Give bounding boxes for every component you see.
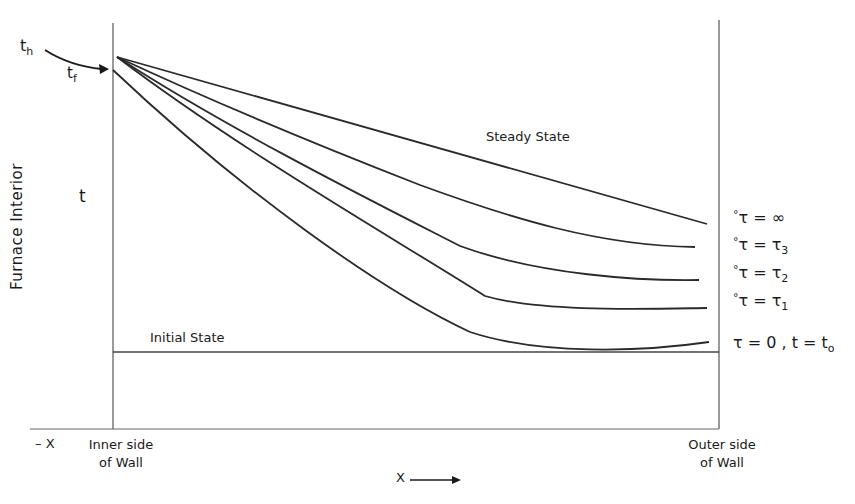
curve-tau-2 xyxy=(117,57,699,280)
curve-tau-1 xyxy=(117,57,707,309)
steady-state-label: Steady State xyxy=(486,129,570,144)
diagram-canvas xyxy=(0,0,855,504)
neg-x-label: – X xyxy=(35,436,55,451)
y-axis-label: Furnace Interior xyxy=(8,163,26,290)
legend-tau-2: °τ = τ2 xyxy=(733,263,788,285)
initial-state-label: Initial State xyxy=(150,330,225,345)
curve-tau-infinity xyxy=(117,57,707,224)
inner-wall-label: Inner side of Wall xyxy=(84,436,158,472)
label-t-h: th xyxy=(20,36,33,58)
outer-wall-label: Outer side of Wall xyxy=(684,436,760,472)
arrow-head-icon xyxy=(99,64,109,74)
x-axis-label: X xyxy=(396,470,405,485)
y-variable-label: t xyxy=(79,186,86,206)
legend-tau-3: °τ = τ3 xyxy=(733,235,788,257)
x-arrow-head-icon xyxy=(452,476,461,484)
legend-tau-1: °τ = τ1 xyxy=(733,291,788,313)
legend-tau-infinity: °τ = ∞ xyxy=(733,208,785,227)
legend-tau-zero: τ = 0 , t = to xyxy=(733,333,835,355)
curve-tau-early xyxy=(113,70,709,350)
label-t-f: tf xyxy=(67,64,77,85)
